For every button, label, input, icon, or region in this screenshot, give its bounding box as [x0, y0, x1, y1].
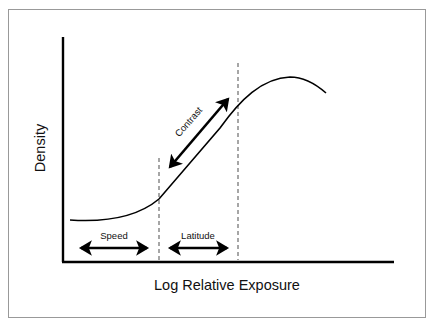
- latitude-label: Latitude: [181, 230, 215, 241]
- x-axis-label: Log Relative Exposure: [154, 277, 300, 293]
- figure-frame: [9, 10, 426, 318]
- speed-label: Speed: [100, 230, 127, 241]
- y-axis-label: Density: [32, 123, 48, 172]
- characteristic-curve-diagram: Speed Latitude Contrast Density Log Rela…: [0, 0, 434, 325]
